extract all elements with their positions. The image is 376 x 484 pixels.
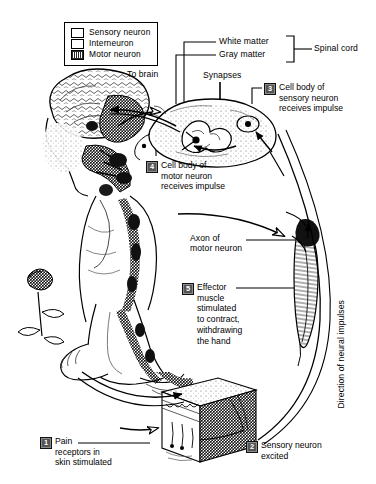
reflex-arc-illustration (0, 0, 376, 484)
step-number-1: 1 (40, 437, 52, 449)
step-text-1: Pain receptors in skin stimulated (55, 436, 112, 468)
label-axon-of-motor-neuron: Axon of motor neuron (190, 233, 242, 254)
motor-neuron-swatch-icon (71, 50, 84, 60)
legend-label-interneuron: Interneuron (89, 39, 134, 49)
legend: Sensory neuron Interneuron Motor neuron (64, 22, 158, 66)
step-text-4: Cell body of motor neuron receives impul… (161, 160, 225, 192)
step-number-4: 4 (146, 161, 158, 173)
legend-label-sensory-neuron: Sensory neuron (89, 28, 150, 38)
label-synapses: Synapses (203, 70, 241, 80)
label-gray-matter: Gray matter (219, 49, 265, 59)
interneuron-swatch-icon (71, 39, 84, 49)
muscle-effector (292, 219, 320, 366)
legend-item-sensory-neuron: Sensory neuron (71, 28, 150, 38)
sensory-neuron-swatch-icon (71, 28, 84, 38)
callout-step-4: 4 Cell body of motor neuron receives imp… (146, 160, 266, 192)
step-number-5: 5 (182, 283, 194, 295)
callout-step-1: 1 Pain receptors in skin stimulated (40, 436, 140, 468)
legend-item-interneuron: Interneuron (71, 39, 150, 49)
head-and-brain (43, 69, 149, 196)
legend-item-motor-neuron: Motor neuron (71, 50, 150, 60)
step-text-5: Effector muscle stimulated to contract, … (197, 282, 242, 346)
label-spinal-cord: Spinal cord (314, 43, 358, 53)
step-number-3: 3 (264, 83, 276, 95)
spinal-cord-cross-section (135, 99, 276, 167)
skin-cross-section-block (162, 378, 256, 462)
callout-step-3: 3 Cell body of sensory neuron receives i… (264, 82, 372, 114)
diagram-canvas: Sensory neuron Interneuron Motor neuron … (0, 0, 376, 484)
torso-figure (79, 196, 156, 322)
callout-step-5: 5 Effector muscle stimulated to contract… (182, 282, 252, 346)
label-white-matter: White matter (219, 36, 269, 46)
rose-stem (18, 269, 64, 344)
step-number-2: 2 (246, 441, 258, 453)
label-to-brain: To brain (127, 69, 158, 79)
callout-step-2: 2 Sensory neuron excited (246, 440, 364, 461)
step-text-3: Cell body of sensory neuron receives imp… (279, 82, 343, 114)
label-direction-of-neural-impulses: Direction of neural impulses (336, 300, 346, 408)
arm-and-hand (61, 300, 194, 395)
step-text-2: Sensory neuron excited (261, 440, 322, 461)
legend-label-motor-neuron: Motor neuron (89, 50, 141, 60)
